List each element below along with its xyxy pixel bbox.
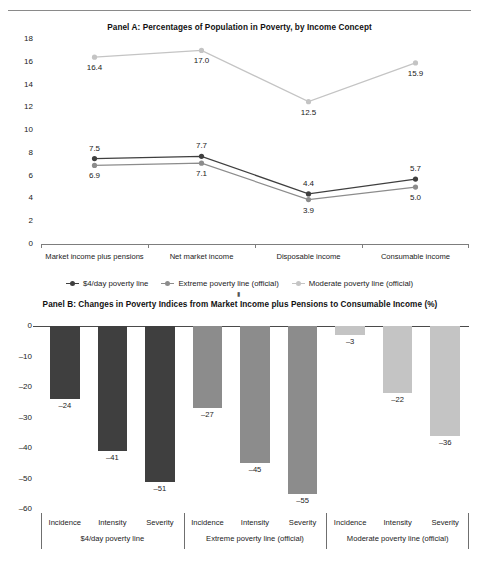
panel-b-ytick-label: –60 — [0, 504, 32, 513]
panel-a-data-point — [306, 191, 311, 196]
panel-b-bar-value-label: –24 — [34, 401, 95, 410]
panel-b-ytick-label: –10 — [0, 352, 32, 361]
panel-a-data-point — [306, 99, 311, 104]
panel-a-data-label: 4.4 — [293, 179, 325, 188]
panel-b-bar-value-label: –41 — [82, 453, 143, 462]
panel-a-data-label: 7.1 — [186, 169, 218, 178]
panel-a-data-label: 7.5 — [79, 144, 111, 153]
panel-a-data-label: 6.9 — [79, 171, 111, 180]
legend-label: Extreme poverty line (official) — [178, 279, 278, 288]
panel-b-ytick-label: –20 — [0, 382, 32, 391]
legend-marker-icon — [66, 279, 79, 288]
panel-b-group-label: Moderate poverty line (official) — [326, 534, 469, 543]
panel-b-category-label: Severity — [279, 518, 327, 527]
panel-a-x-tick — [41, 244, 42, 248]
legend-label: $4/day poverty line — [83, 279, 148, 288]
legend-item[interactable]: Moderate poverty line (official) — [292, 279, 413, 288]
panel-b-category-label: Intensity — [374, 518, 422, 527]
legend-item[interactable]: Extreme poverty line (official) — [161, 279, 278, 288]
panel-b-category-label: Intensity — [231, 518, 279, 527]
panel-b-bar-value-label: –36 — [414, 438, 475, 447]
panel-b-group-label: Extreme poverty line (official) — [184, 534, 327, 543]
panel-b-bar-value-label: –45 — [224, 465, 285, 474]
panel-b-bar — [430, 326, 459, 436]
panel-b-bar — [383, 326, 412, 393]
panel-a-data-point — [413, 60, 418, 65]
legend-marker-icon — [161, 279, 174, 288]
panel-b-category-label: Incidence — [41, 518, 89, 527]
page-artifact-mark: ▮ — [237, 290, 240, 297]
panel-a-category-label: Disposable income — [255, 252, 362, 261]
panel-a-ytick-label: 4 — [0, 193, 33, 202]
panel-a-ytick-label: 2 — [0, 216, 33, 225]
legend-marker-icon — [292, 279, 305, 288]
panel-a-data-point — [92, 55, 97, 60]
panel-a-legend: $4/day poverty lineExtreme poverty line … — [0, 279, 479, 288]
panel-a-chart: 024681012141618Market income plus pensio… — [0, 34, 479, 279]
panel-a-ytick-label: 10 — [0, 125, 33, 134]
panel-b-group-label: $4/day poverty line — [41, 534, 184, 543]
panel-a-category-label: Market income plus pensions — [41, 252, 148, 261]
panel-a-ytick-label: 12 — [0, 102, 33, 111]
panel-b-bar — [145, 326, 174, 482]
panel-a-data-point — [199, 48, 204, 53]
panel-b-bar-value-label: –55 — [272, 496, 333, 505]
panel-a-data-label: 5.0 — [400, 193, 432, 202]
panel-a-data-label: 15.9 — [400, 69, 432, 78]
panel-a-data-point — [306, 197, 311, 202]
panel-a-x-tick — [255, 244, 256, 248]
panel-a-category-label: Consumable income — [362, 252, 469, 261]
panel-a-title: Panel A: Percentages of Population in Po… — [0, 22, 479, 33]
panel-a-series-line — [95, 50, 416, 101]
panel-b-category-label: Incidence — [326, 518, 374, 527]
panel-b-bar-value-label: –3 — [319, 337, 380, 346]
panel-a-x-tick — [362, 244, 363, 248]
panel-b-bar — [193, 326, 222, 408]
panel-a-data-point — [92, 163, 97, 168]
panel-a-category-label: Net market income — [148, 252, 255, 261]
panel-a-x-tick — [468, 244, 469, 248]
panel-a-data-label: 5.7 — [400, 164, 432, 173]
top-divider-rule — [8, 10, 471, 11]
panel-b-ytick-label: 0 — [0, 321, 32, 330]
panel-b-bar-value-label: –27 — [177, 410, 238, 419]
figure-root: Panel A: Percentages of Population in Po… — [0, 0, 479, 569]
panel-a-series-line — [95, 163, 416, 199]
panel-a-data-label: 7.7 — [186, 141, 218, 150]
panel-b-category-label: Severity — [136, 518, 184, 527]
panel-b-bar — [98, 326, 127, 451]
panel-a-data-label: 17.0 — [186, 56, 218, 65]
panel-a-data-point — [199, 161, 204, 166]
legend-item[interactable]: $4/day poverty line — [66, 279, 148, 288]
panel-b-bar-value-label: –51 — [129, 484, 190, 493]
panel-b-ytick-label: –50 — [0, 474, 32, 483]
panel-a-ytick-label: 16 — [0, 57, 33, 66]
panel-a-ytick-label: 14 — [0, 80, 33, 89]
panel-a-data-point — [413, 176, 418, 181]
panel-a-x-tick — [148, 244, 149, 248]
panel-b-chart: 0–10–20–30–40–50–60–24–41–51–27–45–55–3–… — [0, 320, 479, 569]
panel-b-bar — [335, 326, 364, 335]
panel-a-data-point — [199, 154, 204, 159]
panel-b-title: Panel B: Changes in Poverty Indices from… — [40, 299, 440, 310]
panel-a-ytick-label: 0 — [0, 239, 33, 248]
panel-a-data-point — [92, 156, 97, 161]
panel-a-ytick-label: 6 — [0, 171, 33, 180]
panel-b-category-label: Incidence — [184, 518, 232, 527]
panel-a-series-line — [95, 156, 416, 194]
legend-label: Moderate poverty line (official) — [309, 279, 413, 288]
panel-b-ytick-label: –40 — [0, 443, 32, 452]
panel-b-bar — [50, 326, 79, 399]
panel-a-ytick-label: 8 — [0, 148, 33, 157]
panel-a-data-label: 16.4 — [79, 63, 111, 72]
panel-a-data-label: 3.9 — [293, 206, 325, 215]
panel-a-ytick-label: 18 — [0, 34, 33, 43]
panel-b-category-label: Intensity — [89, 518, 137, 527]
panel-a-data-point — [413, 184, 418, 189]
panel-b-ytick-label: –30 — [0, 413, 32, 422]
panel-b-category-label: Severity — [421, 518, 469, 527]
panel-b-bar — [288, 326, 317, 494]
panel-b-bar-value-label: –22 — [367, 395, 428, 404]
panel-a-data-label: 12.5 — [293, 108, 325, 117]
panel-b-bar — [240, 326, 269, 463]
